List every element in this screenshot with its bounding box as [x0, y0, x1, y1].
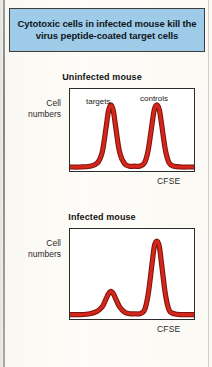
histogram-curve-infected	[70, 229, 194, 319]
x-axis-label-infected: CFSE	[157, 324, 180, 334]
x-axis-label-uninfected: CFSE	[157, 176, 180, 186]
title-banner: Cytotoxic cells in infected mouse kill t…	[9, 8, 205, 52]
plot-area-uninfected: targets controls	[69, 88, 195, 172]
y-axis-label-uninfected: Cell numbers	[9, 98, 61, 119]
left-border-rule	[3, 0, 5, 367]
curve-fill-uninfected	[70, 105, 194, 167]
chart-uninfected-mouse: Uninfected mouse Cell numbers targets co…	[9, 72, 205, 212]
figure-title: Cytotoxic cells in infected mouse kill t…	[10, 18, 204, 43]
y-axis-label-line1: Cell	[9, 98, 61, 109]
chart-heading-infected: Infected mouse	[9, 212, 195, 222]
curve-outline-uninfected	[70, 105, 194, 167]
curve-outline-infected	[70, 241, 194, 315]
peak-label-controls: controls	[140, 94, 168, 103]
right-border-rule	[208, 0, 209, 367]
chart-heading-uninfected: Uninfected mouse	[9, 72, 195, 82]
chart-infected-mouse: Infected mouse Cell numbers CFSE	[9, 212, 205, 360]
y-axis-label-line2: numbers	[9, 249, 61, 260]
plot-area-infected	[69, 228, 195, 320]
peak-label-targets: targets	[86, 97, 110, 106]
y-axis-label-line2: numbers	[9, 109, 61, 120]
y-axis-label-infected: Cell numbers	[9, 238, 61, 259]
figure-panel: Cytotoxic cells in infected mouse kill t…	[0, 0, 212, 367]
curve-fill-infected	[70, 241, 194, 315]
y-axis-label-line1: Cell	[9, 238, 61, 249]
